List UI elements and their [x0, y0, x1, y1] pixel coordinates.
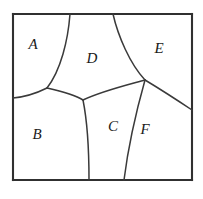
partitioned-square-figure: A B C D E F [0, 0, 203, 199]
region-label-E: E [153, 40, 163, 56]
region-label-F: F [139, 121, 150, 137]
region-B-face [13, 88, 89, 180]
region-label-A: A [27, 36, 38, 52]
region-faces [13, 14, 192, 180]
region-label-B: B [32, 126, 41, 142]
diagram-canvas: A B C D E F [0, 0, 203, 199]
region-label-D: D [86, 50, 98, 66]
region-label-C: C [108, 118, 119, 134]
